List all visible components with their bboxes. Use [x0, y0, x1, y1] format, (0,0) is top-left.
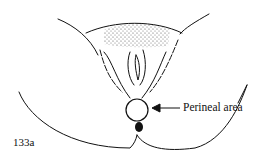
left-labia-inner [104, 52, 130, 98]
left-thigh-upper-line [58, 19, 98, 55]
labia-minora-right [140, 50, 145, 85]
right-buttock-curve [137, 85, 247, 149]
perineal-area-label: Perineal area [183, 101, 243, 113]
right-labia-inner [142, 52, 166, 98]
perineal-area-circle [126, 99, 148, 121]
pubic-hair-stipple [104, 24, 170, 47]
labia-minora-left [128, 52, 134, 85]
figure-number: 133a [13, 136, 34, 148]
anatomy-drawing [0, 0, 270, 161]
left-buttock-curve [19, 92, 137, 148]
anus-shading [135, 122, 143, 132]
callout-arrow [152, 104, 180, 112]
right-thigh-upper-line [180, 14, 209, 34]
left-labia-outer [100, 50, 122, 92]
right-labia-outer [150, 40, 178, 92]
vestibule [135, 55, 139, 80]
